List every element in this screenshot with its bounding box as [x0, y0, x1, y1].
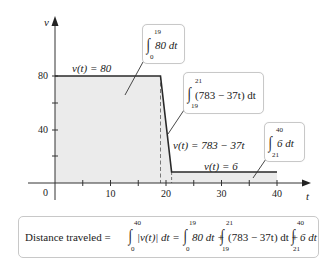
- x-tick-label-10: 10: [106, 189, 116, 199]
- integrand: 6 dt: [300, 232, 317, 243]
- integral-sign-icon: ∫: [221, 227, 225, 244]
- lower-limit: 0: [150, 54, 154, 61]
- y-axis-arrow-icon: [52, 16, 59, 26]
- x-axis-arrow-icon: [302, 180, 311, 187]
- upper-limit: 21: [195, 78, 202, 85]
- callout-integral-19-21: ∫ 21 19 (783 − 37t) dt: [183, 72, 264, 114]
- origin-label: 0: [43, 188, 48, 198]
- y-axis-label: v: [44, 17, 49, 28]
- x-tick-label-40: 40: [272, 189, 282, 199]
- piece-label-constant-80: v(t) = 80: [72, 63, 111, 74]
- upper-limit: 21: [226, 220, 233, 227]
- integral-sign-icon: ∫: [188, 85, 192, 102]
- piece-label-linear: v(t) = 783 − 37t: [173, 140, 245, 151]
- lower-limit: 0: [186, 246, 190, 253]
- x-tick-label-30: 30: [217, 189, 227, 199]
- upper-limit: 40: [276, 127, 283, 134]
- x-tick-label-20: 20: [161, 189, 171, 199]
- callout-integral-21-40: ∫ 40 21 6 dt: [264, 122, 305, 162]
- y-tick-label-40: 40: [28, 125, 48, 135]
- integrand: |v(t)| dt =: [137, 232, 180, 243]
- upper-limit: 19: [154, 29, 161, 36]
- distance-traveled-formula: Distance traveled = ∫ 40 0 |v(t)| dt = ∫…: [18, 216, 319, 258]
- x-axis-label: t: [306, 191, 309, 202]
- upper-limit: 19: [189, 220, 196, 227]
- upper-limit: 40: [134, 220, 141, 227]
- integrand: 6 dt: [277, 138, 294, 149]
- formula-prefix: Distance traveled =: [25, 232, 111, 243]
- y-tick-label-80: 80: [28, 71, 48, 81]
- integral-sign-icon: ∫: [292, 227, 296, 244]
- upper-limit: 40: [297, 220, 304, 227]
- integral-sign-icon: ∫: [184, 227, 188, 244]
- integrand: 80 dt: [155, 40, 177, 51]
- integral-sign-icon: ∫: [129, 227, 133, 244]
- lower-limit: 0: [131, 246, 135, 253]
- callout-integral-0-19: ∫ 19 0 80 dt: [142, 24, 185, 64]
- integral-sign-icon: ∫: [269, 134, 273, 151]
- lower-limit: 21: [293, 246, 300, 253]
- leader-line-2: [168, 110, 184, 134]
- integral-sign-icon: ∫: [147, 36, 151, 53]
- lower-limit: 19: [222, 246, 229, 253]
- piece-label-constant-6: v(t) = 6: [204, 161, 238, 172]
- integrand: (783 − 37t) dt +: [228, 232, 298, 243]
- integrand: (783 − 37t) dt: [195, 90, 256, 101]
- lower-limit: 19: [191, 103, 198, 110]
- lower-limit: 21: [272, 152, 279, 159]
